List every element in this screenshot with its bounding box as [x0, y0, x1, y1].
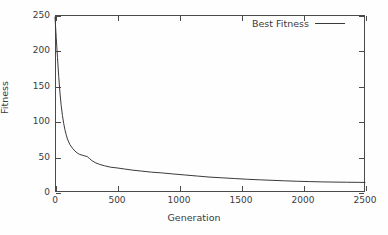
legend: Best Fitness — [252, 19, 345, 29]
x-tick-label: 1500 — [230, 195, 253, 205]
x-axis-label: Generation — [0, 212, 388, 223]
y-tick — [56, 122, 61, 123]
y-tick-label: 100 — [33, 116, 50, 126]
plot-area — [55, 15, 365, 192]
x-tick-label: 500 — [108, 195, 125, 205]
y-tick — [56, 87, 61, 88]
x-tick-label: 1000 — [168, 195, 191, 205]
y-tick-right — [359, 158, 364, 159]
x-tick-label: 0 — [52, 195, 58, 205]
x-tick — [56, 186, 57, 191]
y-tick — [56, 51, 61, 52]
y-tick-label: 200 — [33, 45, 50, 55]
x-tick-top — [366, 16, 367, 21]
y-tick — [56, 193, 61, 194]
y-tick-label: 150 — [33, 81, 50, 91]
x-tick-top — [118, 16, 119, 21]
y-tick-label: 250 — [33, 10, 50, 20]
x-tick — [118, 186, 119, 191]
y-tick-right — [359, 193, 364, 194]
y-tick-right — [359, 16, 364, 17]
x-tick-label: 2000 — [292, 195, 315, 205]
y-tick-label: 0 — [44, 187, 50, 197]
y-tick-right — [359, 87, 364, 88]
x-tick — [242, 186, 243, 191]
x-tick — [304, 186, 305, 191]
x-tick-label: 2500 — [354, 195, 377, 205]
y-axis-label: Fitness — [0, 81, 10, 114]
y-tick-right — [359, 122, 364, 123]
y-tick — [56, 158, 61, 159]
y-tick-right — [359, 51, 364, 52]
y-tick — [56, 16, 61, 17]
x-tick-top — [242, 16, 243, 21]
y-tick-label: 50 — [39, 152, 50, 162]
x-tick — [366, 186, 367, 191]
x-tick-top — [180, 16, 181, 21]
x-tick — [180, 186, 181, 191]
chart-screenshot: Fitness Generation Best Fitness 05001000… — [0, 0, 388, 235]
legend-line-sample — [315, 23, 345, 24]
legend-label-best-fitness: Best Fitness — [252, 19, 309, 29]
